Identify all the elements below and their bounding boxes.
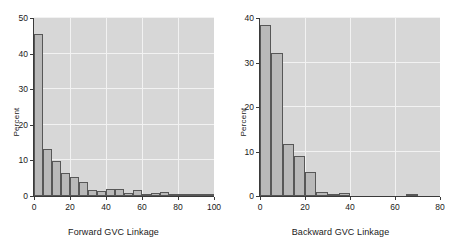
gridline-vertical bbox=[305, 18, 306, 196]
x-axis-label-forward: Forward GVC Linkage bbox=[0, 227, 227, 237]
y-axis-tick bbox=[30, 18, 33, 19]
x-axis-tick bbox=[106, 197, 107, 200]
x-axis-label-forward-text: Forward GVC Linkage bbox=[68, 227, 159, 237]
x-axis-tick bbox=[214, 197, 215, 200]
histogram-bar bbox=[79, 182, 88, 196]
y-axis-tick-label: 30 bbox=[234, 58, 254, 68]
figure-container: Percent Forward GVC Linkage 020406080100… bbox=[0, 0, 455, 243]
x-axis-label-backward: Backward GVC Linkage bbox=[227, 227, 454, 237]
x-axis-tick bbox=[34, 197, 35, 200]
histogram-bar bbox=[283, 144, 294, 196]
histogram-bar bbox=[305, 172, 316, 196]
plot-area-forward bbox=[34, 18, 214, 196]
x-axis-tick-label: 100 bbox=[207, 202, 221, 212]
x-axis-tick bbox=[305, 197, 306, 200]
y-axis-tick bbox=[30, 196, 33, 197]
gridline-vertical bbox=[178, 18, 179, 196]
x-axis-tick-label: 80 bbox=[173, 202, 182, 212]
histogram-bar bbox=[43, 149, 52, 196]
y-axis-tick-label: 0 bbox=[8, 191, 28, 201]
gridline-horizontal bbox=[34, 53, 214, 54]
y-axis-tick-label: 0 bbox=[234, 191, 254, 201]
gridline-vertical bbox=[70, 18, 71, 196]
x-axis-tick-label: 60 bbox=[390, 202, 399, 212]
histogram-bar bbox=[271, 53, 282, 196]
y-axis-tick-label: 10 bbox=[8, 155, 28, 165]
gridline-vertical bbox=[350, 18, 351, 196]
x-axis-line bbox=[34, 196, 214, 197]
y-axis-tick bbox=[256, 63, 259, 64]
histogram-bar bbox=[70, 177, 79, 196]
gridline-horizontal bbox=[34, 124, 214, 125]
x-axis-tick bbox=[70, 197, 71, 200]
gridline-horizontal bbox=[34, 88, 214, 89]
histogram-bar bbox=[294, 156, 305, 196]
x-axis-tick bbox=[350, 197, 351, 200]
gridline-vertical bbox=[395, 18, 396, 196]
x-axis-tick-label: 80 bbox=[435, 202, 444, 212]
x-axis-tick-label: 40 bbox=[345, 202, 354, 212]
plot-area-backward bbox=[260, 18, 440, 196]
y-axis-line bbox=[33, 18, 34, 197]
x-axis-tick bbox=[142, 197, 143, 200]
gridline-vertical bbox=[106, 18, 107, 196]
x-axis-tick-label: 40 bbox=[101, 202, 110, 212]
y-axis-tick bbox=[30, 89, 33, 90]
x-axis-tick bbox=[395, 197, 396, 200]
y-axis-tick bbox=[30, 54, 33, 55]
histogram-bar bbox=[52, 161, 61, 196]
histogram-bar bbox=[34, 34, 43, 196]
x-axis-tick-label: 0 bbox=[258, 202, 263, 212]
y-axis-tick-label: 50 bbox=[8, 13, 28, 23]
y-axis-tick bbox=[256, 18, 259, 19]
x-axis-tick-label: 20 bbox=[65, 202, 74, 212]
x-axis-tick bbox=[440, 197, 441, 200]
x-axis-label-backward-text: Backward GVC Linkage bbox=[292, 227, 390, 237]
histogram-bar bbox=[260, 25, 271, 196]
histogram-bar bbox=[106, 189, 115, 196]
x-axis-tick-label: 60 bbox=[137, 202, 146, 212]
histogram-bar bbox=[61, 173, 70, 196]
y-axis-tick-label: 30 bbox=[8, 84, 28, 94]
x-axis-tick bbox=[260, 197, 261, 200]
x-axis-tick-label: 20 bbox=[300, 202, 309, 212]
y-axis-tick bbox=[30, 160, 33, 161]
gridline-horizontal bbox=[34, 17, 214, 18]
chart-panel-forward-gvc: Percent Forward GVC Linkage 020406080100… bbox=[0, 0, 227, 243]
y-axis-tick-label: 10 bbox=[234, 147, 254, 157]
chart-panel-backward-gvc: Percent Backward GVC Linkage 02040608001… bbox=[227, 0, 454, 243]
y-axis-tick bbox=[30, 125, 33, 126]
y-axis-tick-label: 40 bbox=[234, 13, 254, 23]
gridline-vertical bbox=[142, 18, 143, 196]
gridline-horizontal bbox=[34, 159, 214, 160]
histogram-bar bbox=[115, 189, 124, 196]
y-axis-tick-label: 40 bbox=[8, 49, 28, 59]
y-axis-tick bbox=[256, 152, 259, 153]
y-axis-tick-label: 20 bbox=[8, 120, 28, 130]
y-axis-line bbox=[259, 18, 260, 197]
y-axis-tick bbox=[256, 196, 259, 197]
y-axis-tick-label: 20 bbox=[234, 102, 254, 112]
x-axis-tick bbox=[178, 197, 179, 200]
y-axis-tick bbox=[256, 107, 259, 108]
x-axis-tick-label: 0 bbox=[32, 202, 37, 212]
